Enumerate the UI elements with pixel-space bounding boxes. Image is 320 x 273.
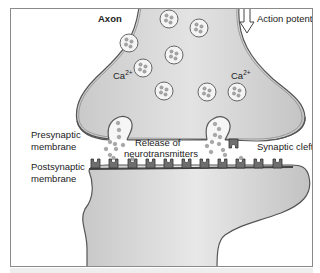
neurotransmitter-molecule (213, 122, 217, 126)
receptor (254, 159, 263, 168)
synaptic-vesicle (160, 10, 178, 28)
label-action-potential: Action potential (257, 13, 313, 24)
bound-neurotransmitter (239, 156, 243, 160)
synaptic-vesicle (120, 34, 138, 52)
receptor (200, 159, 209, 168)
neurotransmitter-molecule (223, 153, 227, 157)
neurotransmitter-molecule (113, 142, 117, 146)
receptor (182, 159, 191, 168)
receptor (91, 159, 100, 168)
neurotransmitter-molecule (218, 135, 222, 139)
diagram-frame: Axon Action potential Ca2+ Ca2+ Presynap… (10, 8, 313, 267)
label-release-1: Release of (135, 137, 181, 148)
label-axon: Axon (98, 13, 122, 24)
neurotransmitter-molecule (221, 148, 225, 152)
receptor (109, 159, 118, 168)
neurotransmitter-molecule (121, 143, 125, 147)
bound-neurotransmitter (112, 156, 116, 160)
neurotransmitter-molecule (108, 140, 112, 144)
label-presynaptic-1: Presynaptic (31, 129, 81, 140)
receptor (273, 159, 282, 168)
neurotransmitter-molecule (209, 150, 213, 154)
neurotransmitter-molecule (114, 147, 118, 151)
receptor (218, 159, 227, 168)
postsynaptic-terminal-body (83, 165, 310, 267)
neurotransmitter-molecule (117, 135, 121, 139)
receptor (146, 159, 155, 168)
below-frame-strip (10, 268, 313, 273)
synaptic-vesicle (165, 46, 183, 64)
synapse-diagram: Axon Action potential Ca2+ Ca2+ Presynap… (11, 9, 313, 267)
label-postsynaptic-2: membrane (31, 173, 76, 184)
label-synaptic-cleft: Synaptic cleft (257, 141, 313, 152)
neurotransmitter-molecule (104, 147, 108, 151)
neurotransmitter-molecule (108, 153, 112, 157)
synaptic-vesicle (155, 82, 173, 100)
neurotransmitter-molecule (217, 142, 221, 146)
neurotransmitter-molecule (205, 144, 209, 148)
postsynaptic-terminal (83, 165, 310, 267)
neurotransmitter-molecule (213, 133, 217, 137)
synaptic-vesicle (198, 83, 216, 101)
neurotransmitter-molecule (210, 140, 214, 144)
synaptic-vesicle (228, 83, 246, 101)
synaptic-vesicle (134, 59, 152, 77)
receptor (236, 159, 245, 168)
neurotransmitter-molecule (117, 128, 121, 132)
action-potential-arrow (240, 9, 254, 33)
neurotransmitter-molecule (116, 121, 120, 125)
label-postsynaptic-1: Postsynaptic (31, 161, 85, 172)
label-release-2: neurotransmitters (124, 148, 198, 159)
receptor (164, 159, 173, 168)
label-presynaptic-2: membrane (31, 141, 76, 152)
neurotransmitter-molecule (217, 127, 221, 131)
synaptic-vesicle (190, 19, 208, 37)
